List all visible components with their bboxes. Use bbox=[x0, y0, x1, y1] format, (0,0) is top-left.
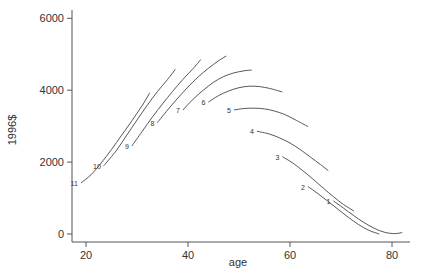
cohort-label-8: 8 bbox=[150, 120, 154, 127]
x-tick-label: 40 bbox=[182, 249, 194, 261]
y-tick-label: 4000 bbox=[40, 84, 64, 96]
y-axis-title: 1996$ bbox=[6, 115, 18, 146]
cohort-curve-7 bbox=[183, 70, 252, 110]
x-tick-label: 80 bbox=[386, 249, 398, 261]
cohort-curve-4 bbox=[257, 131, 328, 171]
cohort-curve-1 bbox=[333, 201, 402, 234]
x-axis-title: age bbox=[229, 256, 247, 268]
y-tick-label: 6000 bbox=[40, 12, 64, 24]
cohort-curve-5 bbox=[234, 108, 308, 126]
cohort-curve-2 bbox=[308, 187, 379, 235]
cohort-label-5: 5 bbox=[227, 107, 231, 114]
y-tick-label: 2000 bbox=[40, 156, 64, 168]
x-tick-label: 60 bbox=[284, 249, 296, 261]
x-tick-label: 20 bbox=[80, 249, 92, 261]
cohort-label-11: 11 bbox=[71, 180, 78, 187]
y-tick-label: 0 bbox=[58, 228, 64, 240]
axes: 0200040006000 20406080 age 1996$ bbox=[6, 10, 410, 268]
cohort-label-9: 9 bbox=[125, 143, 129, 150]
cohort-label-6: 6 bbox=[201, 99, 205, 106]
cohort-curve-9 bbox=[132, 60, 201, 146]
cohort-label-10: 10 bbox=[93, 163, 101, 170]
cohort-curve-10 bbox=[104, 69, 176, 165]
cohort-label-2: 2 bbox=[301, 184, 305, 191]
cohort-curve-3 bbox=[282, 157, 353, 211]
cohort-curve-8 bbox=[157, 56, 226, 123]
chart: 0200040006000 20406080 age 1996$ 1110987… bbox=[0, 0, 422, 273]
cohort-curve-11 bbox=[81, 93, 150, 183]
cohort-label-4: 4 bbox=[250, 128, 254, 135]
cohort-label-3: 3 bbox=[275, 154, 279, 161]
cohort-label-1: 1 bbox=[326, 198, 330, 205]
cohort-curve-6 bbox=[208, 86, 282, 102]
plot-area: 1110987654321 bbox=[71, 56, 403, 234]
cohort-label-7: 7 bbox=[176, 107, 180, 114]
y-ticks: 0200040006000 bbox=[40, 12, 72, 240]
